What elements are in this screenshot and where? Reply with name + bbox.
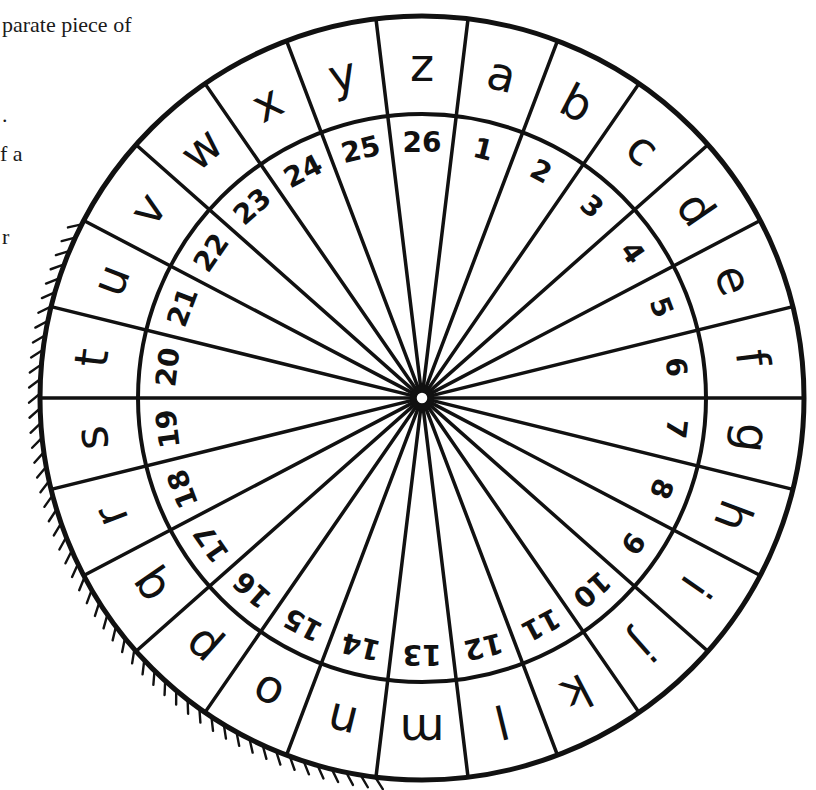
segment-letter: m xyxy=(400,704,445,758)
segment-number: 20 xyxy=(149,346,186,389)
segment-letter: z xyxy=(410,38,434,92)
center-pin-icon xyxy=(410,386,434,410)
segment-number: 6 xyxy=(659,355,694,378)
segment-number: 7 xyxy=(659,417,694,440)
segment-number: 26 xyxy=(403,126,442,159)
segment-number: 13 xyxy=(403,638,442,671)
segment-number: 19 xyxy=(149,408,186,451)
cipher-wheel: a1b2c3d4e5f6g7h8i9j10k11l12m13n14o15p16q… xyxy=(0,0,816,790)
